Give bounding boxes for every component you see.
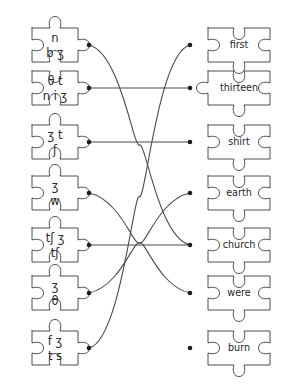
word-label: earth bbox=[226, 187, 252, 198]
word-puzzle-piece[interactable]: church bbox=[208, 228, 270, 273]
ipa-puzzle-piece[interactable]: ʒw bbox=[32, 165, 89, 210]
puzzle-piece-outline bbox=[197, 71, 270, 116]
matching-connector-line[interactable] bbox=[89, 45, 190, 245]
word-pieces-group: firstthirteenshirtearthchurchwereburn bbox=[197, 28, 270, 376]
left-anchor-dot[interactable] bbox=[87, 291, 92, 296]
ipa-text-line-bottom: w bbox=[50, 194, 59, 208]
word-puzzle-piece[interactable]: earth bbox=[208, 176, 270, 221]
ipa-puzzle-piece[interactable]: tʃ ʒtʃ bbox=[32, 217, 89, 262]
left-anchor-dot[interactable] bbox=[87, 346, 92, 351]
word-label: were bbox=[227, 287, 250, 298]
puzzle-piece-outline bbox=[208, 28, 270, 73]
word-puzzle-piece[interactable]: thirteen bbox=[197, 71, 270, 116]
worksheet-canvas: nb ʒθ tn i ʒʒ tʃʒwtʃ ʒtʃʒθf ʒt s firstth… bbox=[0, 0, 283, 392]
left-anchor-dot[interactable] bbox=[87, 43, 92, 48]
ipa-text-line-bottom: tʃ bbox=[51, 246, 61, 260]
ipa-puzzle-piece[interactable]: ʒ tʃ bbox=[32, 114, 89, 159]
ipa-text-line-bottom: θ bbox=[51, 294, 58, 308]
right-anchor-dot[interactable] bbox=[188, 346, 193, 351]
ipa-text-line-top: f ʒ bbox=[48, 334, 63, 348]
puzzle-piece-outline bbox=[32, 165, 89, 210]
word-puzzle-piece[interactable]: burn bbox=[208, 331, 270, 376]
left-anchor-dot[interactable] bbox=[87, 243, 92, 248]
word-puzzle-piece[interactable]: shirt bbox=[208, 125, 270, 170]
ipa-text-line-top: ʒ t bbox=[48, 128, 63, 142]
ipa-puzzle-piece[interactable]: nb ʒ bbox=[32, 17, 89, 62]
right-anchor-dot[interactable] bbox=[188, 291, 193, 296]
word-label: shirt bbox=[228, 136, 250, 147]
word-label: thirteen bbox=[220, 82, 258, 93]
puzzle-piece-outline bbox=[32, 265, 89, 310]
ipa-text-line-top: θ t bbox=[47, 74, 63, 88]
puzzle-piece-outline bbox=[208, 228, 270, 273]
ipa-text-line-bottom: t s bbox=[48, 349, 62, 363]
right-anchor-dot[interactable] bbox=[188, 140, 193, 145]
matching-connector-line[interactable] bbox=[89, 45, 190, 348]
ipa-puzzle-piece[interactable]: ʒθ bbox=[32, 265, 89, 310]
left-anchor-dot[interactable] bbox=[87, 86, 92, 91]
ipa-text-line-top: ʒ bbox=[52, 279, 59, 293]
ipa-text-line-top: tʃ ʒ bbox=[46, 231, 65, 245]
word-puzzle-piece[interactable]: were bbox=[208, 276, 270, 321]
puzzle-piece-outline bbox=[208, 176, 270, 221]
puzzle-worksheet-svg: nb ʒθ tn i ʒʒ tʃʒwtʃ ʒtʃʒθf ʒt s firstth… bbox=[0, 0, 283, 392]
word-puzzle-piece[interactable]: first bbox=[208, 28, 270, 73]
ipa-text-line-top: ʒ bbox=[52, 179, 59, 193]
ipa-text-line-bottom: n i ʒ bbox=[43, 89, 68, 103]
right-anchor-dot[interactable] bbox=[188, 243, 193, 248]
right-anchor-dot[interactable] bbox=[188, 43, 193, 48]
left-anchor-dot[interactable] bbox=[87, 140, 92, 145]
word-label: burn bbox=[228, 342, 250, 353]
ipa-pieces-group: nb ʒθ tn i ʒʒ tʃʒwtʃ ʒtʃʒθf ʒt s bbox=[32, 17, 89, 365]
connector-lines-group bbox=[89, 45, 190, 348]
ipa-text-line-top: n bbox=[51, 31, 58, 45]
word-label: church bbox=[223, 239, 256, 250]
puzzle-piece-outline bbox=[208, 125, 270, 170]
right-anchor-dot[interactable] bbox=[188, 191, 193, 196]
left-anchor-dot[interactable] bbox=[87, 191, 92, 196]
puzzle-piece-outline bbox=[208, 276, 270, 321]
ipa-puzzle-piece[interactable]: f ʒt s bbox=[32, 320, 89, 365]
right-anchor-dot[interactable] bbox=[188, 86, 193, 91]
puzzle-piece-outline bbox=[208, 331, 270, 376]
ipa-text-line-bottom: b ʒ bbox=[46, 46, 64, 60]
word-label: first bbox=[230, 39, 249, 50]
ipa-puzzle-piece[interactable]: θ tn i ʒ bbox=[32, 71, 89, 105]
matching-connector-line[interactable] bbox=[89, 193, 190, 293]
